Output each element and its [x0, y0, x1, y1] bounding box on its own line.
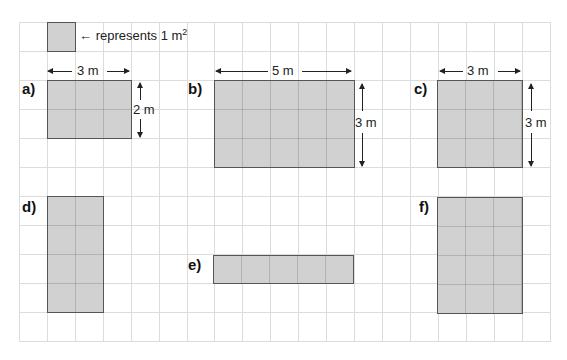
key-arrow: ← — [79, 28, 92, 43]
key-superscript: 2 — [182, 27, 187, 37]
key-unit-square — [47, 22, 76, 52]
shape-c-height-arrow-down — [531, 133, 532, 166]
shape-d-rectangle — [47, 196, 104, 313]
shape-e-label: e) — [188, 256, 201, 273]
shape-c-width-arrow-right — [498, 71, 520, 72]
shape-b-width-arrow-left — [216, 71, 268, 72]
shape-c-height-label: 3 m — [525, 115, 547, 130]
shape-f-rectangle — [437, 197, 523, 314]
shape-a-height-arrow-down — [140, 119, 141, 137]
shape-c-width-label: 3 m — [467, 63, 489, 78]
shape-b-height-label: 3 m — [355, 115, 377, 130]
key-label: represents 1 m — [96, 28, 183, 43]
shape-a-label: a) — [22, 80, 35, 97]
shape-e-rectangle — [213, 255, 354, 284]
shape-a-width-arrow-left — [48, 71, 72, 72]
shape-a-height-label: 2 m — [133, 102, 155, 117]
shape-a-width-arrow-right — [107, 71, 129, 72]
shape-a-height-arrow-up — [140, 83, 141, 100]
shape-f-label: f) — [419, 198, 429, 215]
shape-a-width-label: 3 m — [77, 63, 99, 78]
shape-b-height-arrow-up — [362, 84, 363, 111]
shape-c-label: c) — [414, 80, 427, 97]
shape-b-rectangle — [214, 80, 355, 168]
shape-d-label: d) — [22, 198, 36, 215]
shape-b-height-arrow-down — [362, 133, 363, 166]
shape-b-width-arrow-right — [302, 71, 351, 72]
shape-c-height-arrow-up — [531, 84, 532, 111]
shape-b-width-label: 5 m — [272, 63, 294, 78]
shape-b-label: b) — [188, 80, 202, 97]
shape-c-rectangle — [437, 80, 523, 168]
shape-c-width-arrow-left — [440, 71, 463, 72]
shape-a-rectangle — [47, 80, 132, 139]
key-text: ← represents 1 m2 — [79, 27, 187, 43]
